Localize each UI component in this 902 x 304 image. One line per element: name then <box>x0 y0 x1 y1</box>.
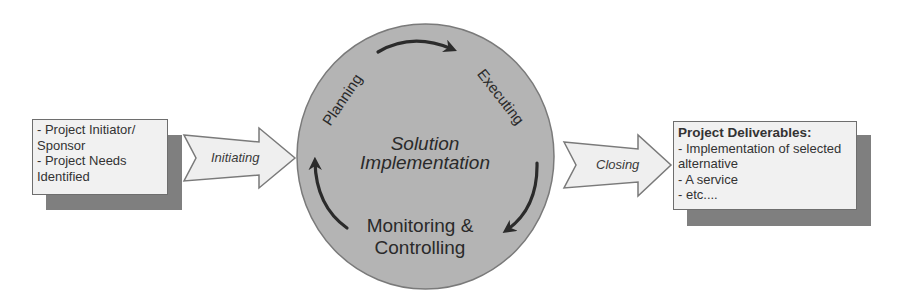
output-title: Project Deliverables: <box>678 125 852 141</box>
monitoring-controlling-label: Monitoring & Controlling <box>345 215 495 259</box>
input-line-2: Sponsor <box>37 138 163 154</box>
input-line-3: - Project Needs <box>37 153 163 169</box>
output-line-3: - A service <box>678 172 852 188</box>
output-line-1: - Implementation of selected <box>678 141 852 157</box>
monitoring-line-1: Monitoring & <box>345 215 495 237</box>
input-line-1: - Project Initiator/ <box>37 122 163 138</box>
monitoring-line-2: Controlling <box>345 237 495 259</box>
closing-label: Closing <box>596 157 639 172</box>
output-box: Project Deliverables: - Implementation o… <box>673 121 857 210</box>
center-title-line-1: Solution <box>345 134 505 153</box>
input-box: - Project Initiator/ Sponsor - Project N… <box>32 119 168 195</box>
input-line-4: Identified <box>37 169 163 185</box>
output-line-2: alternative <box>678 156 852 172</box>
cycle-center-title: Solution Implementation <box>345 134 505 172</box>
center-title-line-2: Implementation <box>345 153 505 172</box>
output-line-4: - etc.... <box>678 187 852 203</box>
initiating-label: Initiating <box>211 150 259 165</box>
